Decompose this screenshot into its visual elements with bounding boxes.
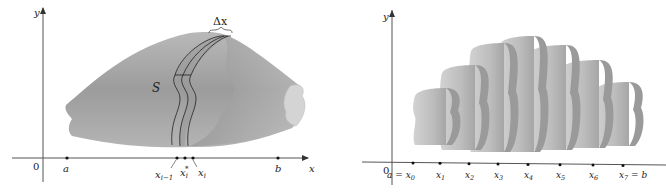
point-x-i-minus-1-label: xi−1 [155, 169, 173, 182]
right-figure: y 0 a = x0x1x2x3x4x5x6x7 = b [362, 10, 666, 185]
partition-label-1: x1 [436, 170, 445, 182]
point-a-label: a [63, 163, 69, 174]
slab-4 [498, 36, 548, 152]
point-b-label: b [275, 163, 281, 174]
slab-end-face [629, 82, 643, 146]
point-x-i-label: xi [198, 167, 206, 180]
left-x-axis-label: x [309, 163, 315, 174]
partition-point-0 [412, 162, 415, 165]
slab-5 [528, 45, 580, 150]
partition-label-3: x3 [494, 170, 503, 182]
diagram-canvas: Δx y x 0 S a xi−1 xi* xi b y 0 a = x0x1x… [0, 0, 666, 195]
partition-point-5 [559, 163, 562, 166]
partition-label-5: x5 [556, 170, 565, 182]
point-a [65, 156, 68, 159]
partition-point-1 [439, 162, 442, 165]
approximating-slabs [413, 36, 643, 152]
partition-label-7: x7 = b [619, 170, 647, 182]
left-y-axis-label: y [33, 7, 40, 18]
left-origin-label: 0 [33, 161, 39, 172]
partition-label-4: x4 [524, 170, 533, 182]
partition-point-7 [622, 164, 625, 167]
partition-point-6 [592, 164, 595, 167]
y-axis-arrow-icon [40, 7, 46, 14]
point-b [276, 156, 279, 159]
left-figure: Δx y x 0 S a xi−1 xi* xi b [12, 7, 315, 182]
solid-end-cap [284, 85, 305, 126]
slab-7 [593, 82, 643, 146]
partition-point-4 [527, 163, 530, 166]
slab-1 [413, 88, 460, 145]
right-y-axis-label: y [382, 11, 389, 22]
point-x-i-minus-1 [175, 156, 178, 159]
slab-body [413, 88, 446, 145]
point-x-i-star [183, 156, 186, 159]
partition-label-0: a = x0 [387, 170, 415, 182]
pointer-x-i-minus-1 [171, 160, 176, 168]
slab-3 [469, 43, 518, 152]
slab-2 [440, 65, 489, 150]
point-x-i [191, 156, 194, 159]
right-x-axis [362, 162, 666, 165]
partition-point-2 [468, 162, 471, 165]
partition-label-2: x2 [465, 170, 474, 182]
partition-point-3 [497, 163, 500, 166]
delta-x-label: Δx [213, 15, 228, 28]
right-y-axis-arrow-icon [389, 10, 395, 17]
pointer-x-i [193, 160, 197, 167]
slab-6 [560, 60, 613, 148]
x-axis-arrow-icon [302, 155, 309, 161]
partition-label-6: x6 [589, 170, 598, 182]
point-x-i-star-label: xi* [180, 165, 189, 180]
solid-s-label: S [152, 81, 160, 95]
